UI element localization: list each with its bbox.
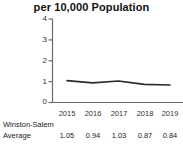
y-tick-label-2: 2 [33,57,47,65]
table-row-label-line2: Average [3,130,59,141]
y-tick-label-3: 3 [33,36,47,44]
y-tick-label-0: 0 [33,98,47,106]
line-chart-svg [0,16,183,108]
table-cell-2017: 1.03 [106,130,132,141]
y-tick-label-4: 4 [33,15,47,23]
table-cell-2015: 1.05 [54,130,80,141]
data-table: Winston-Salem Average 1.05 0.94 1.03 0.8… [0,119,183,144]
x-tick-label-2019: 2019 [157,110,183,118]
table-cell-2019: 0.84 [157,130,183,141]
plot-area [0,16,183,108]
x-tick-label-2015: 2015 [54,110,80,118]
table-row-label: Winston-Salem Average [3,119,59,141]
table-row-label-line1: Winston-Salem [3,120,54,129]
x-tick-label-2017: 2017 [106,110,132,118]
table-cell-2016: 0.94 [80,130,106,141]
chart-panel: per 10,000 Population 4 3 2 1 0 2015 201… [0,0,183,144]
x-tick-label-2018: 2018 [132,110,158,118]
data-series-line [67,81,170,85]
table-cell-2018: 0.87 [132,130,158,141]
chart-title: per 10,000 Population [0,1,183,14]
x-tick-label-2016: 2016 [80,110,106,118]
y-tick-label-1: 1 [33,78,47,86]
